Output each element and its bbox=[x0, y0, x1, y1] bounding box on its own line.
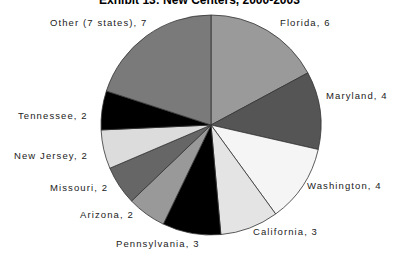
slice-label: Florida, 6 bbox=[280, 17, 331, 28]
pie-chart bbox=[0, 0, 399, 264]
slice-label: Arizona, 2 bbox=[80, 209, 134, 220]
slice-label: Maryland, 4 bbox=[326, 90, 388, 101]
slice-label: California, 3 bbox=[253, 226, 318, 237]
slice-label: Other (7 states), 7 bbox=[50, 17, 147, 28]
slice-label: Pennsylvania, 3 bbox=[116, 238, 200, 249]
slice-label: New Jersey, 2 bbox=[14, 150, 88, 161]
slice-label: Washington, 4 bbox=[307, 180, 382, 191]
slice-label: Missouri, 2 bbox=[50, 182, 108, 193]
slice-label: Tennessee, 2 bbox=[18, 110, 88, 121]
